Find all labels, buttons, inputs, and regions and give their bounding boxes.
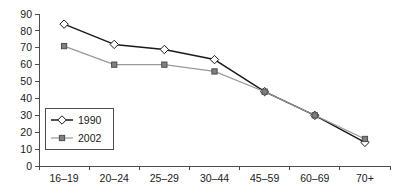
y-tick-label: 0 [26, 160, 32, 172]
y-tick-label: 80 [20, 25, 32, 37]
y-tick-label: 20 [20, 126, 32, 138]
data-point-marker-square [362, 136, 367, 141]
x-category-label: 20–24 [100, 172, 129, 184]
data-point-marker-square [61, 43, 66, 48]
legend-label-1990: 1990 [78, 114, 102, 126]
y-tick-label: 90 [20, 8, 32, 20]
y-tick-label: 10 [20, 143, 32, 155]
y-tick-label: 60 [20, 58, 32, 70]
y-tick-label: 50 [20, 75, 32, 87]
data-point-marker-square [212, 69, 217, 74]
data-point-marker-square [262, 89, 267, 94]
x-category-label: 45–59 [250, 172, 279, 184]
y-tick-label: 70 [20, 41, 32, 53]
y-tick-label: 40 [20, 92, 32, 104]
chart-legend: 19902002 [45, 108, 113, 149]
data-point-marker-square [312, 113, 317, 118]
chart-canvas: 0102030405060708090 16–1920–2425–2930–44… [0, 0, 404, 196]
plot-background [0, 0, 404, 196]
line-chart: 0102030405060708090 16–1920–2425–2930–44… [0, 0, 404, 196]
data-point-marker-square [162, 62, 167, 67]
x-category-label: 25–29 [150, 172, 179, 184]
data-point-marker-square [112, 62, 117, 67]
x-category-label: 30–44 [200, 172, 229, 184]
data-point-marker-square [59, 135, 64, 140]
x-category-label: 60–69 [300, 172, 329, 184]
y-tick-label: 30 [20, 109, 32, 121]
x-category-label: 16–19 [49, 172, 78, 184]
legend-label-2002: 2002 [78, 132, 102, 144]
x-category-label: 70+ [356, 172, 374, 184]
